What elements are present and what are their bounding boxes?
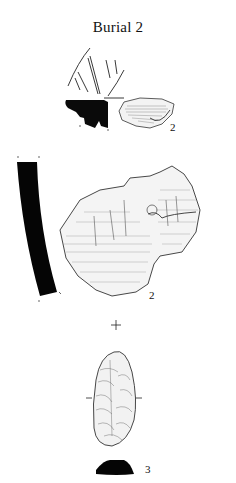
item-label-rim-sherd: 2 xyxy=(170,121,176,133)
body-sherd-profile xyxy=(17,162,57,296)
rim-sherd-profile xyxy=(65,100,108,128)
item-label-flint-tool: 3 xyxy=(145,463,151,475)
flint-tool-drawing xyxy=(86,320,142,475)
incised-lines-drawing xyxy=(68,48,124,98)
item-label-body-sherd: 2 xyxy=(149,289,155,301)
flint-tool-section xyxy=(96,460,134,475)
artifact-drawings xyxy=(0,0,236,483)
body-sherd-exterior xyxy=(60,166,200,296)
rim-sherd-exterior xyxy=(119,98,174,128)
